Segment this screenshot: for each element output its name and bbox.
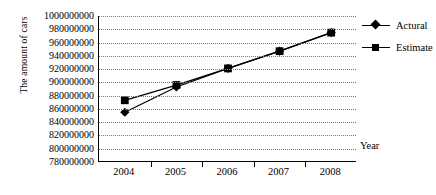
- x-axis-tick-label: 2008: [300, 166, 360, 177]
- series-layer: [99, 16, 357, 162]
- y-axis-tick-label: 900000000: [8, 77, 94, 87]
- gridline: [99, 109, 356, 110]
- gridline: [99, 96, 356, 97]
- data-point-square: [121, 96, 129, 104]
- y-axis-tick-label: 840000000: [8, 117, 94, 127]
- legend-item[interactable]: Estimate: [362, 36, 436, 58]
- y-axis-tick-label: 780000000: [8, 157, 94, 167]
- x-axis-title: Year: [360, 140, 379, 151]
- legend-label: Actural: [390, 20, 428, 31]
- y-axis-tick-labels: 1000000000980000000960000000940000000920…: [8, 0, 94, 195]
- y-axis-tick-label: 960000000: [8, 38, 94, 48]
- y-axis-tick-label: 820000000: [8, 130, 94, 140]
- data-point-square: [276, 47, 284, 55]
- legend-marker-square-icon: [362, 41, 390, 53]
- gridline: [99, 82, 356, 83]
- gridline: [99, 56, 356, 57]
- y-axis-tick-label: 860000000: [8, 104, 94, 114]
- legend-marker-diamond-icon: [362, 19, 390, 31]
- legend-item[interactable]: Actural: [362, 14, 436, 36]
- gridline: [99, 69, 356, 70]
- gridline: [99, 43, 356, 44]
- y-axis-tick-label: 800000000: [8, 144, 94, 154]
- y-axis-tick-label: 920000000: [8, 64, 94, 74]
- gridline: [99, 149, 356, 150]
- gridline: [99, 122, 356, 123]
- plot-area: [98, 16, 356, 162]
- legend-label: Estimate: [390, 42, 433, 53]
- line-chart: The amount of cars 100000000098000000096…: [0, 0, 436, 195]
- legend: ActuralEstimate: [362, 14, 436, 58]
- gridline: [99, 135, 356, 136]
- gridline: [99, 29, 356, 30]
- y-axis-tick-label: 1000000000: [8, 11, 94, 21]
- y-axis-tick-label: 980000000: [8, 24, 94, 34]
- y-axis-tick-label: 940000000: [8, 51, 94, 61]
- y-axis-tick-label: 880000000: [8, 91, 94, 101]
- gridline: [99, 16, 356, 17]
